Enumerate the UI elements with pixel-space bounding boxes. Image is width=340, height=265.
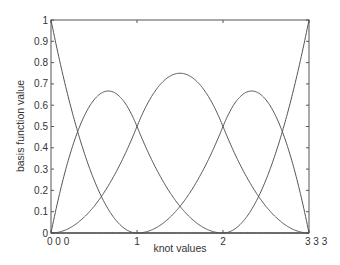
x-tick-label: 2 xyxy=(220,236,226,247)
x-tick-label: 1 xyxy=(134,236,140,247)
y-tick-label: 0.8 xyxy=(34,57,48,68)
plot-frame xyxy=(51,20,309,233)
x-tick-label: 3 3 3 xyxy=(305,236,328,247)
y-tick-label: 0.3 xyxy=(34,164,48,175)
x-axis-label: knot values xyxy=(153,242,206,254)
y-tick-label: 0.2 xyxy=(34,185,48,196)
y-tick-label: 1 xyxy=(42,15,48,26)
y-tick-label: 0.6 xyxy=(34,100,48,111)
y-tick-label: 0.7 xyxy=(34,78,48,89)
y-tick-label: 0.1 xyxy=(34,206,48,217)
x-tick-label: 0 0 0 xyxy=(47,236,70,247)
y-tick-label: 0.9 xyxy=(34,36,48,47)
basis-curve-n0 xyxy=(51,20,309,233)
y-tick-label: 0.5 xyxy=(34,121,48,132)
basis-curve-n2 xyxy=(51,73,309,233)
y-tick-label: 0.4 xyxy=(34,142,48,153)
y-axis-label: basis function value xyxy=(14,80,26,172)
basis-curve-n4 xyxy=(51,20,309,233)
basis-function-chart: 00.10.20.30.40.50.60.70.80.91 0 0 0123 3… xyxy=(0,0,340,265)
